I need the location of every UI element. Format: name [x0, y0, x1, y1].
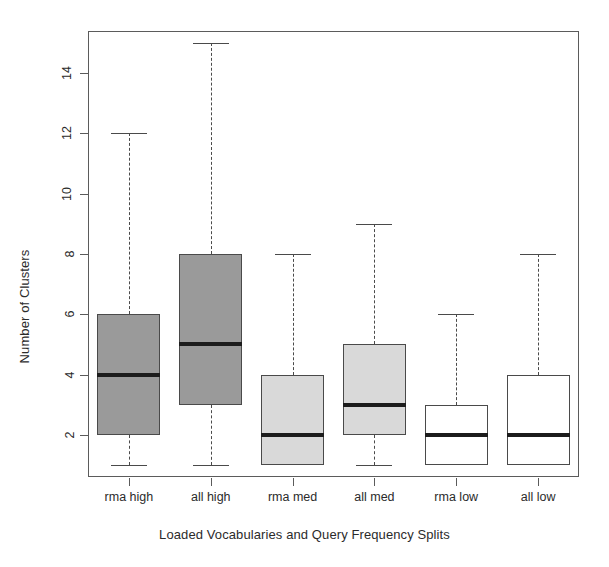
y-axis-tick-label: 14 — [0, 66, 74, 80]
y-axis-tick-mark — [80, 194, 88, 195]
y-axis-tick-label: 10 — [0, 187, 74, 201]
lower-whisker — [374, 435, 375, 465]
lower-whisker — [211, 405, 212, 465]
upper-whisker-cap — [193, 43, 229, 44]
y-axis-tick-label-text: 6 — [64, 311, 78, 318]
upper-whisker-cap — [356, 224, 392, 225]
upper-whisker — [129, 133, 130, 314]
plot-area — [88, 31, 579, 477]
x-axis-tick-mark — [374, 478, 375, 486]
x-axis-tick-label: all high — [191, 490, 231, 504]
boxplot-figure: Number of Clusters 2468101214 rma highal… — [0, 0, 609, 567]
lower-whisker-cap — [193, 465, 229, 466]
y-axis-tick-label: 12 — [0, 126, 74, 140]
median-line — [179, 342, 242, 346]
median-line — [97, 373, 160, 377]
upper-whisker — [456, 314, 457, 404]
y-axis-tick-label-text: 12 — [60, 127, 74, 141]
y-axis-tick-label-text: 2 — [64, 431, 78, 438]
upper-whisker — [211, 43, 212, 254]
median-line — [261, 433, 324, 437]
y-axis-tick-label-text: 10 — [60, 187, 74, 201]
y-axis-tick-mark — [80, 375, 88, 376]
x-axis-tick-mark — [211, 478, 212, 486]
upper-whisker — [538, 254, 539, 375]
x-axis-tick-label: all med — [354, 490, 394, 504]
lower-whisker-cap — [356, 465, 392, 466]
x-axis-tick-mark — [456, 478, 457, 486]
upper-whisker — [293, 254, 294, 375]
x-axis-tick-label: rma low — [434, 490, 478, 504]
y-axis-tick-mark — [80, 435, 88, 436]
y-axis-tick-mark — [80, 73, 88, 74]
x-axis-tick-label: all low — [521, 490, 556, 504]
median-line — [507, 433, 570, 437]
box-iqr — [261, 375, 324, 465]
x-axis-tick-mark — [129, 478, 130, 486]
median-line — [425, 433, 488, 437]
y-axis-tick-label: 4 — [0, 368, 74, 382]
upper-whisker-cap — [111, 133, 147, 134]
median-line — [343, 403, 406, 407]
y-axis-tick-label: 6 — [0, 307, 74, 321]
y-axis-tick-label-text: 4 — [64, 371, 78, 378]
y-axis-tick-mark — [80, 254, 88, 255]
x-axis-tick-label: rma med — [268, 490, 317, 504]
y-axis-tick-label: 8 — [0, 247, 74, 261]
x-axis-tick-mark — [538, 478, 539, 486]
y-axis-tick-label: 2 — [0, 428, 74, 442]
upper-whisker — [374, 224, 375, 345]
upper-whisker-cap — [438, 314, 474, 315]
y-axis-tick-mark — [80, 133, 88, 134]
y-axis-tick-label-text: 14 — [60, 66, 74, 80]
y-axis-title: Number of Clusters — [0, 0, 48, 567]
lower-whisker-cap — [111, 465, 147, 466]
upper-whisker-cap — [275, 254, 311, 255]
box-iqr — [179, 254, 242, 405]
upper-whisker-cap — [520, 254, 556, 255]
y-axis-tick-mark — [80, 314, 88, 315]
x-axis-tick-mark — [293, 478, 294, 486]
x-axis-title: Loaded Vocabularies and Query Frequency … — [0, 527, 609, 542]
box-iqr — [507, 375, 570, 465]
lower-whisker — [129, 435, 130, 465]
y-axis-tick-label-text: 8 — [64, 251, 78, 258]
x-axis-tick-label: rma high — [105, 490, 154, 504]
box-iqr — [343, 344, 406, 434]
